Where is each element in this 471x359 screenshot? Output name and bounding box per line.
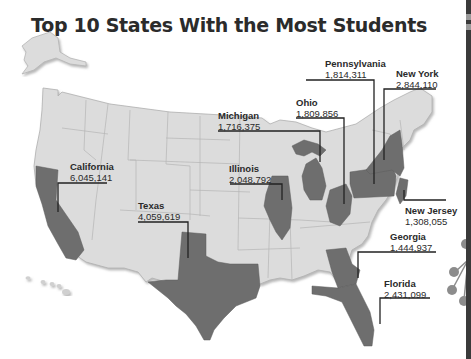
- state-name: California: [70, 161, 114, 172]
- label-pennsylvania: Pennsylvania 1,814,311: [325, 58, 386, 80]
- label-florida: Florida 2,431,099: [384, 278, 426, 300]
- state-name: New Jersey: [405, 205, 457, 216]
- bar-notch: [466, 14, 471, 20]
- state-value: 1,809,856: [296, 108, 338, 119]
- alaska-shape: [22, 32, 86, 74]
- label-ohio: Ohio 1,809,856: [296, 97, 338, 119]
- state-name: Georgia: [390, 231, 432, 242]
- state-value: 1,716,375: [218, 121, 260, 132]
- leader-florida: [380, 298, 430, 324]
- label-texas: Texas 4,059,619: [138, 200, 180, 222]
- decorative-side-bar: [466, 0, 471, 359]
- label-illinois: Illinois 2,048,792: [229, 163, 271, 185]
- state-name: Texas: [138, 200, 180, 211]
- state-name: Pennsylvania: [325, 58, 386, 69]
- label-new-jersey: New Jersey 1,308,055: [405, 205, 457, 227]
- state-value: 2,844,110: [396, 79, 438, 90]
- state-name: New York: [396, 68, 438, 79]
- state-georgia: [326, 248, 360, 288]
- state-value: 1,444,937: [390, 242, 432, 253]
- state-value: 4,059,619: [138, 211, 180, 222]
- state-florida: [312, 284, 374, 346]
- hawaii-shape: [26, 276, 71, 295]
- state-name: Michigan: [218, 110, 260, 121]
- bar-notch: [466, 24, 471, 30]
- leader-new-jersey: [404, 190, 446, 200]
- leader-georgia: [358, 252, 436, 278]
- label-new-york: New York 2,844,110: [396, 68, 438, 90]
- state-name: Ohio: [296, 97, 338, 108]
- state-value: 1,814,311: [325, 69, 386, 80]
- state-name: Florida: [384, 278, 426, 289]
- label-michigan: Michigan 1,716,375: [218, 110, 260, 132]
- state-value: 6,045,141: [70, 172, 114, 183]
- state-value: 2,048,792: [229, 174, 271, 185]
- state-value: 1,308,055: [405, 216, 457, 227]
- state-name: Illinois: [229, 163, 271, 174]
- label-georgia: Georgia 1,444,937: [390, 231, 432, 253]
- label-california: California 6,045,141: [70, 161, 114, 183]
- state-value: 2,431,099: [384, 289, 426, 300]
